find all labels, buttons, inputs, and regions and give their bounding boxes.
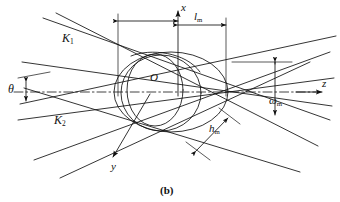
axis-y-label: y (111, 161, 116, 172)
vector-k1-base: K (62, 31, 70, 45)
dimension-omega-m-base: ω (269, 94, 277, 106)
optical-geometry-diagram (0, 0, 340, 202)
dimension-hm-label: hm (209, 123, 220, 136)
dimension-lm-label: lm (194, 11, 202, 24)
figure-caption: (b) (160, 184, 173, 196)
beam-k2-rays (18, 36, 336, 160)
vector-k2-base: K (54, 113, 62, 127)
vector-k1-sub: 1 (70, 37, 74, 46)
dimension-lm-sub: m (197, 16, 202, 23)
dimension-hm-sub: m (215, 128, 220, 135)
dimension-omega-m-label: ωm (269, 95, 282, 108)
vector-k2-sub: 2 (62, 119, 66, 128)
vector-k2-label: K2 (54, 114, 66, 127)
axis-y-arrow (113, 94, 150, 157)
axis-x-label: x (181, 2, 186, 13)
dimension-omega-m-sub: m (277, 100, 282, 107)
angle-theta-label: θ (8, 83, 14, 95)
vector-k1-label: K1 (62, 32, 74, 45)
figure-panel-b: x y z O K1 K2 lm ωm hm θ (b) (0, 0, 340, 202)
origin-label: O (150, 72, 158, 83)
axis-z-label: z (322, 78, 326, 89)
angle-theta-wedge (18, 72, 50, 101)
